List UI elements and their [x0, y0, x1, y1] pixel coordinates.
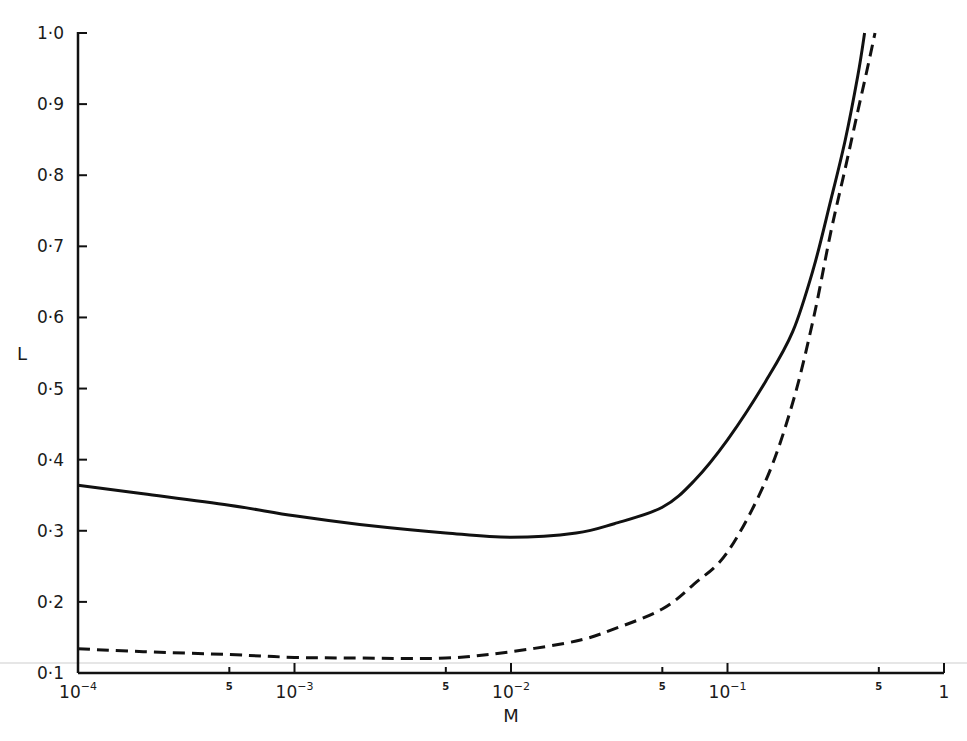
tick-labels: 0·10·20·30·40·50·60·70·80·91·010−4510−35… — [37, 23, 949, 702]
y-tick-label: 0·2 — [37, 592, 64, 612]
y-tick-label: 0·8 — [37, 165, 64, 185]
y-tick-label: 0·7 — [37, 236, 64, 256]
x-minor-tick-label: 5 — [659, 681, 666, 692]
y-tick-label: 0·3 — [37, 521, 64, 541]
y-tick-label: 0·9 — [37, 94, 64, 114]
x-minor-tick-label: 5 — [226, 681, 233, 692]
line-chart: 0·10·20·30·40·50·60·70·80·91·010−4510−35… — [0, 0, 967, 741]
solid-curve — [78, 33, 865, 537]
x-tick-label: 10−3 — [276, 680, 314, 702]
y-tick-label: 0·6 — [37, 307, 64, 327]
x-tick-label: 10−1 — [709, 680, 747, 702]
dashed-curve — [78, 33, 875, 659]
x-minor-tick-label: 5 — [442, 681, 449, 692]
axes — [78, 32, 944, 673]
x-tick-label: 10−4 — [59, 680, 97, 702]
y-tick-label: 0·5 — [37, 379, 64, 399]
y-tick-label: 1·0 — [37, 23, 64, 43]
y-tick-label: 0·1 — [37, 663, 64, 683]
curves — [78, 33, 875, 659]
y-tick-label: 0·4 — [37, 450, 64, 470]
x-tick-label: 1 — [939, 682, 950, 702]
x-minor-tick-label: 5 — [875, 681, 882, 692]
y-axis-title: L — [17, 343, 27, 364]
x-axis-title: M — [503, 705, 519, 726]
x-tick-label: 10−2 — [492, 680, 530, 702]
